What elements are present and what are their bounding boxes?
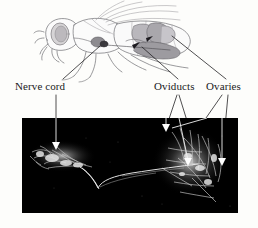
arrowhead-marker (52, 124, 226, 166)
fluorescence-micrograph (22, 118, 238, 213)
arrowhead-oviduct-a (162, 124, 170, 132)
arrowhead-ovary (218, 158, 226, 166)
label-ovaries: Ovaries (206, 80, 241, 92)
leader-nerve-cord-up (63, 46, 100, 79)
label-nerve-cord: Nerve cord (15, 80, 65, 92)
label-oviducts: Oviducts (154, 80, 195, 92)
micrograph-arrowheads (22, 118, 238, 213)
leader-oviducts-up (142, 47, 178, 79)
figure-root: Nerve cord Oviducts Ovaries (0, 0, 258, 228)
arrowhead-nerve-cord (52, 142, 60, 150)
leader-ovaries-up (172, 36, 226, 79)
arrowhead-oviduct-b (184, 158, 192, 166)
leader-ovaries-down-a (206, 95, 222, 118)
